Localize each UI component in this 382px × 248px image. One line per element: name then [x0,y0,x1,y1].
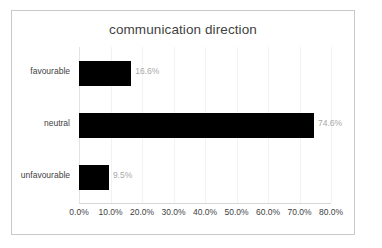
x-tick-label: 30.0% [161,207,185,217]
bar-row: favourable 16.6% [79,47,331,99]
bar-row: unfavourable 9.5% [79,151,331,203]
x-tick-label: 70.0% [287,207,311,217]
bar-neutral [79,113,314,138]
category-label-favourable: favourable [30,66,70,76]
chart-title: communication direction [12,22,354,37]
bar-row: neutral 74.6% [79,99,331,151]
x-axis-tick-labels: 0.0% 10.0% 20.0% 30.0% 40.0% 50.0% 60.0%… [79,207,331,223]
bar-favourable [79,61,131,86]
category-label-neutral: neutral [44,118,70,128]
bar-unfavourable [79,165,109,190]
x-tick-label: 20.0% [130,207,154,217]
x-tick-label: 80.0% [319,207,343,217]
x-tick-label: 10.0% [98,207,122,217]
x-tick-label: 0.0% [69,207,88,217]
bar-value-unfavourable: 9.5% [113,170,132,180]
x-tick-label: 60.0% [256,207,280,217]
chart-container: communication direction favourable 16.6%… [11,10,355,235]
x-tick-label: 50.0% [224,207,248,217]
bar-value-favourable: 16.6% [135,66,159,76]
category-label-unfavourable: unfavourable [21,170,70,180]
x-tick-label: 40.0% [193,207,217,217]
bar-value-neutral: 74.6% [318,118,342,128]
plot-area: favourable 16.6% neutral 74.6% unfavoura… [79,47,331,203]
x-axis-line [79,203,331,204]
